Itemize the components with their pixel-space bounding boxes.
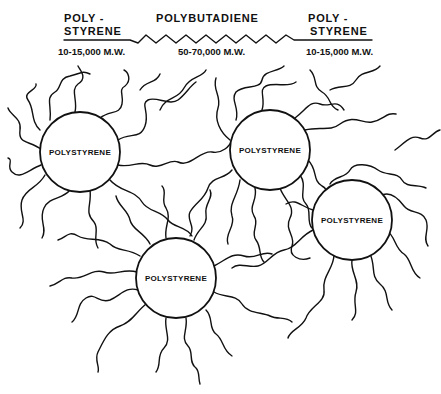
chain <box>330 66 380 90</box>
chain <box>215 78 230 140</box>
chain <box>352 260 357 320</box>
copolymer-backbone-line <box>64 35 372 43</box>
chain <box>370 254 392 310</box>
chain <box>184 318 200 384</box>
chain <box>8 108 42 150</box>
chain <box>100 70 129 118</box>
chain <box>50 271 137 286</box>
domain-label-1: POLYSTYRENE <box>40 148 120 157</box>
chain <box>140 74 160 90</box>
chain <box>227 180 240 244</box>
chain <box>156 318 168 372</box>
domain-label-2: POLYSTYRENE <box>230 146 310 155</box>
chain <box>280 188 310 259</box>
chain <box>116 196 150 244</box>
domain-label-4: POLYSTYRENE <box>136 274 216 283</box>
chain <box>20 175 45 228</box>
chain <box>288 255 334 338</box>
chain <box>295 103 344 118</box>
domain-label-3: POLYSTYRENE <box>312 216 392 225</box>
chain <box>395 130 440 150</box>
chain <box>305 114 396 130</box>
chain <box>58 234 140 256</box>
domain-diagram <box>0 0 441 394</box>
chain <box>27 84 40 130</box>
chain <box>160 70 206 110</box>
chain <box>262 82 296 110</box>
chain <box>232 230 313 268</box>
chain <box>206 310 232 356</box>
chain <box>8 158 41 175</box>
chain <box>252 188 264 262</box>
chain <box>118 82 196 140</box>
chain <box>118 140 232 166</box>
chain <box>42 190 70 238</box>
chain <box>97 304 146 372</box>
chain <box>189 170 232 236</box>
chain <box>72 289 138 322</box>
chain <box>386 230 420 278</box>
chain <box>214 292 292 322</box>
chain <box>162 186 168 238</box>
chain <box>300 175 312 228</box>
